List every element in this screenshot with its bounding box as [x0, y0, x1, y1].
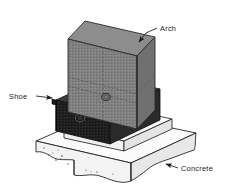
arch-shoe-concrete-figure: Arch Shoe Concrete: [0, 0, 225, 195]
technical-illustration: Arch Shoe Concrete: [0, 0, 225, 195]
concrete-callout: Concrete: [166, 164, 213, 173]
shoe-leader-line: [36, 96, 52, 98]
arch-label: Arch: [160, 24, 176, 33]
arch-bolt-hole-icon: [102, 93, 111, 100]
shoe-label: Shoe: [9, 92, 27, 101]
concrete-label: Concrete: [181, 164, 213, 173]
concrete-leader-line: [166, 164, 178, 168]
shoe-left-tab: [52, 99, 56, 105]
arch-rib: [68, 21, 155, 129]
shoe-callout: Shoe: [9, 92, 52, 101]
